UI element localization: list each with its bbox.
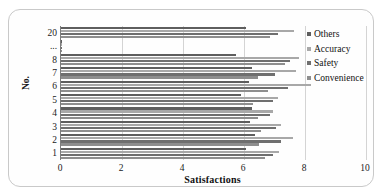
- bar-group: [61, 133, 365, 146]
- bar-convenience: [61, 130, 261, 132]
- bar-accuracy: [61, 30, 294, 32]
- bar-accuracy: [61, 151, 279, 153]
- bar-safety: [61, 87, 288, 89]
- legend-label: Others: [314, 29, 339, 39]
- bar-safety: [61, 33, 278, 35]
- bar-group: [61, 106, 365, 119]
- bar-group: [61, 147, 365, 160]
- bar-others: [61, 148, 246, 150]
- x-tick-label: 8: [289, 162, 319, 174]
- legend-label: Accuracy: [314, 44, 350, 54]
- x-axis-title: Satisfactions: [60, 174, 365, 185]
- y-tick-label: 6: [23, 81, 57, 91]
- bar-convenience: [61, 76, 258, 78]
- legend-item-safety[interactable]: Safety: [307, 56, 381, 71]
- y-tick-label: 8: [23, 55, 57, 65]
- bar-convenience: [61, 143, 259, 145]
- bar-safety: [61, 140, 281, 142]
- legend-swatch-icon: [307, 47, 311, 51]
- x-tick-label: 6: [228, 162, 258, 174]
- x-tick-label: 4: [167, 162, 197, 174]
- bar-others: [61, 121, 250, 123]
- bar-convenience: [61, 90, 268, 92]
- bar-others: [61, 107, 252, 109]
- bar-accuracy: [61, 124, 281, 126]
- legend-label: Convenience: [314, 73, 364, 83]
- bar-convenience: [61, 36, 270, 38]
- y-tick-label: 1: [23, 148, 57, 158]
- bar-others: [61, 94, 241, 96]
- y-tick-label: 2: [23, 135, 57, 145]
- bar-others: [61, 134, 255, 136]
- bar-others: [61, 81, 249, 83]
- bar-safety: [61, 73, 275, 75]
- y-tick-label: ...: [23, 41, 57, 51]
- y-axis-tick-labels: 12345678...20: [21, 26, 57, 160]
- bar-convenience: [61, 50, 62, 52]
- legend-label: Safety: [314, 58, 338, 68]
- bar-others: [61, 27, 246, 29]
- bar-others: [61, 40, 62, 42]
- chart-frame: No. 12345678...20 0246810 Satisfactions …: [8, 9, 374, 187]
- x-tick-label: 10: [350, 162, 380, 174]
- y-tick-label: 3: [23, 122, 57, 132]
- y-tick-label: 7: [23, 68, 57, 78]
- bar-convenience: [61, 63, 285, 65]
- bar-safety: [61, 47, 62, 49]
- x-tick-label: 0: [45, 162, 75, 174]
- bar-others: [61, 67, 252, 69]
- legend-swatch-icon: [307, 32, 311, 36]
- bar-others: [61, 54, 236, 56]
- legend-item-convenience[interactable]: Convenience: [307, 71, 381, 86]
- bar-safety: [61, 154, 273, 156]
- bar-group: [61, 93, 365, 106]
- bar-convenience: [61, 157, 265, 159]
- y-tick-label: 20: [23, 28, 57, 38]
- bar-safety: [61, 60, 290, 62]
- bar-accuracy: [61, 97, 278, 99]
- bar-accuracy: [61, 137, 293, 139]
- legend-swatch-icon: [307, 61, 311, 65]
- bar-convenience: [61, 103, 253, 105]
- legend-swatch-icon: [307, 76, 311, 80]
- bar-accuracy: [61, 110, 273, 112]
- bar-accuracy: [61, 84, 311, 86]
- legend-item-others[interactable]: Others: [307, 27, 381, 42]
- chart-legend: OthersAccuracySafetyConvenience: [307, 27, 381, 85]
- bar-accuracy: [61, 43, 62, 45]
- y-tick-label: 5: [23, 95, 57, 105]
- bar-safety: [61, 127, 276, 129]
- bar-group: [61, 120, 365, 133]
- bar-convenience: [61, 117, 258, 119]
- x-tick-label: 2: [106, 162, 136, 174]
- bar-safety: [61, 100, 273, 102]
- legend-item-accuracy[interactable]: Accuracy: [307, 42, 381, 57]
- bar-accuracy: [61, 70, 296, 72]
- y-tick-label: 4: [23, 108, 57, 118]
- bar-accuracy: [61, 57, 299, 59]
- bar-safety: [61, 114, 270, 116]
